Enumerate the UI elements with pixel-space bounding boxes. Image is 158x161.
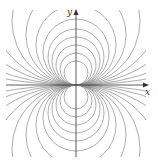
x-axis-label: x [145,87,150,97]
field-curve [0,0,158,85]
field-curve [0,0,158,85]
field-line-diagram: x y [0,0,158,161]
y-arrow-icon [74,9,79,15]
field-curve [0,0,158,85]
x-axis: x [6,83,150,98]
y-axis-label: y [66,7,73,17]
field-curve [0,0,158,85]
field-curves [0,0,158,161]
